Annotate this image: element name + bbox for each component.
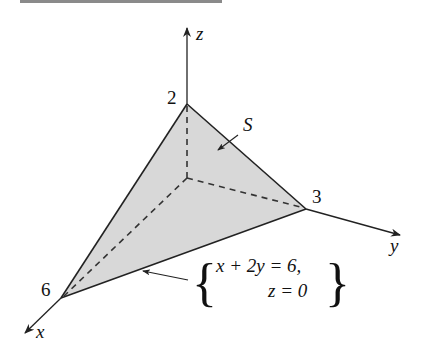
tetrahedron-diagram: z y x 2 3 6 S { x + 2y = 6, z = 0 }: [0, 0, 421, 359]
edge-pointer-arrow: [143, 271, 188, 280]
z-axis-label: z: [195, 23, 204, 44]
y-axis-label: y: [388, 235, 399, 256]
y-axis: [306, 209, 400, 235]
surface-label: S: [243, 114, 253, 135]
left-brace: {: [192, 254, 217, 311]
equation-line-1: x + 2y = 6,: [215, 255, 301, 276]
x-axis-label: x: [35, 321, 45, 342]
z-intercept-label: 2: [167, 87, 177, 108]
edge-equation-annotation: { x + 2y = 6, z = 0 }: [192, 254, 350, 311]
equation-line-2: z = 0: [267, 280, 308, 301]
right-brace: }: [325, 254, 350, 311]
x-intercept-label: 6: [41, 279, 51, 300]
y-intercept-label: 3: [312, 186, 322, 207]
